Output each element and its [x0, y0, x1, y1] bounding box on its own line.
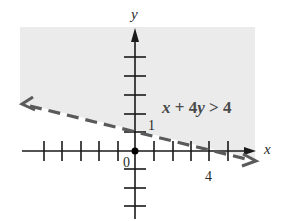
origin-label: 0 — [123, 155, 130, 170]
inequality-end: > 4 — [205, 98, 232, 117]
y-axis-label: y — [129, 6, 138, 22]
shaded-region — [20, 27, 255, 159]
inequality-x: x — [161, 98, 171, 117]
inequality-graph: y x 1 0 4 x + 4y > 4 — [0, 0, 284, 221]
x-axis-label: x — [263, 141, 271, 157]
inequality-label: x + 4y > 4 — [161, 98, 232, 117]
x-tick-label-4: 4 — [205, 169, 212, 184]
origin-point — [132, 148, 139, 155]
inequality-mid: + 4 — [171, 98, 198, 117]
y-tick-label-1: 1 — [148, 118, 155, 133]
inequality-y: y — [195, 98, 205, 117]
